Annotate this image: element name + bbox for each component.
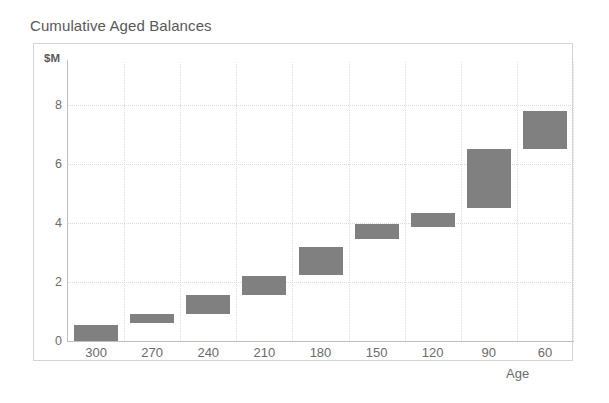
x-axis-tick-label: 150 <box>350 345 404 360</box>
gridline-horizontal <box>68 223 573 224</box>
gridline-vertical <box>349 62 350 341</box>
gridline-vertical <box>180 62 181 341</box>
gridline-vertical <box>461 62 462 341</box>
gridline-horizontal <box>68 105 573 106</box>
y-axis-tick-label: 4 <box>34 216 62 230</box>
y-axis-tick-labels: 02468 <box>30 0 62 403</box>
y-axis-tick-label: 8 <box>34 98 62 112</box>
y-axis-tick-label: 6 <box>34 157 62 171</box>
bar[interactable] <box>186 295 230 314</box>
gridline-vertical <box>292 62 293 341</box>
x-axis-tick-label: 300 <box>69 345 123 360</box>
bar[interactable] <box>242 276 286 295</box>
bar[interactable] <box>74 325 118 341</box>
bar[interactable] <box>467 149 511 208</box>
x-axis-title: Age <box>506 366 529 381</box>
gridline-vertical <box>124 62 125 341</box>
bar[interactable] <box>411 213 455 228</box>
chart-card: Cumulative Aged Balances $M 02468 300270… <box>0 0 609 403</box>
gridline-vertical <box>236 62 237 341</box>
y-axis-tick-label: 0 <box>34 334 62 348</box>
x-axis-tick-label: 120 <box>406 345 460 360</box>
gridline-vertical <box>573 62 574 341</box>
bar[interactable] <box>523 111 567 149</box>
x-axis-tick-label: 240 <box>181 345 235 360</box>
x-axis-tick-label: 270 <box>125 345 179 360</box>
bar[interactable] <box>355 224 399 239</box>
x-axis-tick-label: 180 <box>294 345 348 360</box>
gridline-vertical <box>517 62 518 341</box>
gridline-horizontal <box>68 282 573 283</box>
x-axis-tick-label: 210 <box>237 345 291 360</box>
y-axis-tick-label: 2 <box>34 275 62 289</box>
bar[interactable] <box>299 247 343 275</box>
y-axis-line <box>67 60 68 342</box>
x-axis-line <box>67 341 574 342</box>
x-axis-tick-label: 90 <box>462 345 516 360</box>
bar[interactable] <box>130 314 174 323</box>
gridline-vertical <box>405 62 406 341</box>
x-axis-tick-label: 60 <box>518 345 572 360</box>
